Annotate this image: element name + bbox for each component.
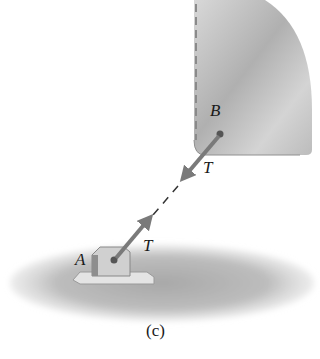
point-b-label: B <box>210 101 220 121</box>
figure-caption: (c) <box>146 321 165 341</box>
tension-label-a: T <box>143 236 152 256</box>
tension-label-b: T <box>203 158 212 178</box>
wall-block <box>194 0 312 155</box>
diagram-canvas <box>0 0 320 359</box>
cable-dashed-line <box>153 186 178 215</box>
free-body-diagram: B T T A (c) <box>0 0 320 359</box>
ground-surface <box>10 245 314 321</box>
point-a-label: A <box>75 250 85 270</box>
